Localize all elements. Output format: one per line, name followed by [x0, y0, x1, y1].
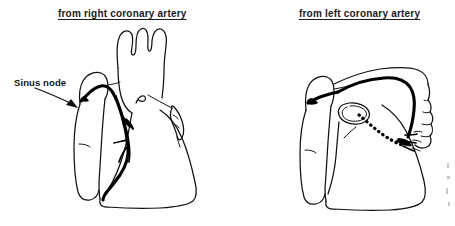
pulmonary-trunk-edge — [148, 95, 172, 108]
scan-artifacts — [446, 163, 450, 206]
line-art-svg — [0, 0, 455, 226]
pulmonary-vein-cluster-outline — [415, 84, 433, 148]
atrium-lateral-wall — [300, 110, 325, 204]
panel-left-coronary-artwork — [300, 68, 433, 211]
posterior-atrial-roof — [334, 68, 428, 84]
terminal-twig-2 — [413, 140, 421, 142]
right-atrium-left-wall — [74, 104, 99, 200]
terminal-twig-1 — [414, 131, 422, 132]
left-coronary-artery-hidden-segment — [359, 115, 402, 145]
sinus-node-pointer-group — [35, 88, 78, 108]
pulmonary-vein-notch-3 — [422, 124, 431, 125]
atrial-branch — [114, 140, 127, 143]
aortic-arch-outline — [117, 28, 166, 98]
sinus-node-artery-tip — [81, 96, 89, 102]
left-atrial-appendage-outline — [171, 106, 184, 140]
scan-speck-3 — [446, 188, 448, 194]
panel-right-coronary-artwork — [74, 28, 196, 208]
ventricular-groove-left-panel — [328, 122, 339, 194]
pulmonary-vein-notch-4 — [421, 136, 430, 137]
right-coronary-artery-distal — [103, 193, 106, 200]
atrioventricular-groove — [99, 99, 105, 199]
scan-speck-1 — [447, 163, 449, 168]
figure-canvas: from right coronary artery from left cor… — [0, 0, 455, 226]
distal-branch-2 — [405, 134, 417, 135]
aortic-root-outline — [136, 96, 146, 103]
ventricle-outline — [100, 110, 197, 208]
sinus-node-pointer-line — [35, 88, 70, 103]
pulmonary-vein-notch-2 — [423, 112, 430, 113]
appendage-notch-1 — [173, 115, 178, 119]
apex-ridge — [344, 127, 356, 138]
sinus-node-pointer-arrowhead — [66, 99, 78, 108]
ventricle-outline-left-panel — [326, 105, 426, 210]
crista-terminalis-mark — [79, 144, 90, 147]
pulmonary-vein-notch-1 — [424, 100, 428, 101]
scan-speck-2 — [447, 176, 450, 179]
atrium-groove-mark — [305, 150, 316, 153]
scan-speck-4 — [448, 202, 450, 206]
